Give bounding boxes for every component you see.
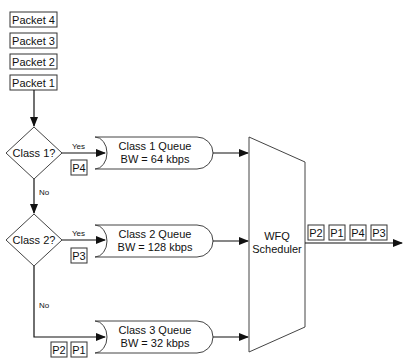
decision-label: Class 2? [13,234,56,246]
yes-label: Yes [72,142,85,151]
output-packet-p3: P3 [371,225,387,240]
wfq-diagram: Packet 4 Packet 3 Packet 2 Packet 1 Clas… [0,0,408,364]
packet-label: Packet 1 [12,77,55,89]
decision-class-1: Class 1? [6,127,62,179]
queued-packet-p1: P1 [71,342,87,357]
queue-name: Class 3 Queue [119,324,192,336]
scheduler-label-line2: Scheduler [252,243,302,255]
queued-packet-p3: P3 [71,248,87,263]
wfq-scheduler: WFQ Scheduler [249,137,305,352]
incoming-packet-4: Packet 4 [10,12,57,27]
queue-bandwidth: BW = 32 kbps [121,337,190,349]
yes-label: Yes [72,229,85,238]
decision-label: Class 1? [13,147,56,159]
no-label: No [39,188,50,197]
svg-text:P4: P4 [72,162,85,174]
no-label: No [39,301,50,310]
packet-label: Packet 3 [12,35,55,47]
queue-bandwidth: BW = 128 kbps [118,241,193,253]
packet-label: Packet 4 [12,14,55,26]
queue-name: Class 1 Queue [119,140,192,152]
scheduler-label-line1: WFQ [264,230,290,242]
svg-text:P3: P3 [372,227,385,239]
class-2-queue: Class 2 Queue BW = 128 kbps [95,225,213,257]
svg-text:P2: P2 [52,344,65,356]
queued-packet-p2: P2 [51,342,67,357]
incoming-packet-1: Packet 1 [10,75,57,90]
queue-name: Class 2 Queue [119,228,192,240]
class-1-queue: Class 1 Queue BW = 64 kbps [95,137,213,169]
class-3-queue: Class 3 Queue BW = 32 kbps [95,321,213,353]
output-packet-p2: P2 [308,225,324,240]
output-packet-p1: P1 [329,225,345,240]
queued-packet-p4: P4 [71,160,87,175]
output-packet-p4: P4 [350,225,366,240]
queue-bandwidth: BW = 64 kbps [121,153,190,165]
incoming-packet-2: Packet 2 [10,54,57,69]
packet-label: Packet 2 [12,56,55,68]
svg-text:P1: P1 [330,227,343,239]
svg-text:P1: P1 [72,344,85,356]
incoming-packet-3: Packet 3 [10,33,57,48]
svg-text:P2: P2 [309,227,322,239]
decision-class-2: Class 2? [6,214,62,266]
svg-text:P4: P4 [351,227,364,239]
svg-text:P3: P3 [72,250,85,262]
